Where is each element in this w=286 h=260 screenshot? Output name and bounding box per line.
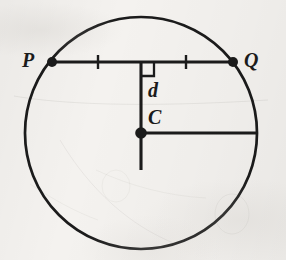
right-angle-icon <box>141 63 154 76</box>
label-c: C <box>148 107 161 127</box>
label-q: Q <box>244 50 258 70</box>
point-marker-q <box>228 57 238 67</box>
label-d: d <box>148 80 158 100</box>
geometry-canvas <box>0 0 286 260</box>
point-marker-c <box>135 127 147 139</box>
point-marker-p <box>47 57 57 67</box>
label-p: P <box>22 50 34 70</box>
geometry-figure: P Q d C <box>0 0 286 260</box>
